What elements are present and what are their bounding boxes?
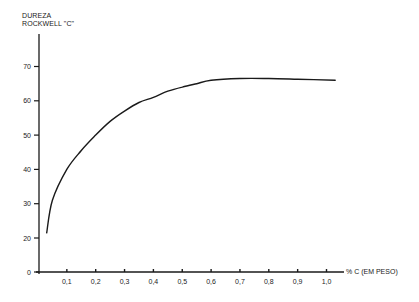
x-tick-label: 1,0 xyxy=(322,278,332,285)
y-ticks: 0203040506070 xyxy=(23,63,39,276)
x-tick-label: 0,9 xyxy=(293,278,303,285)
y-tick-label: 0 xyxy=(27,269,31,276)
x-tick-label: 0,5 xyxy=(177,278,187,285)
x-tick-label: 0,1 xyxy=(62,278,72,285)
hardness-curve xyxy=(47,78,336,233)
x-axis-label: % C (EM PESO) xyxy=(346,268,398,275)
x-tick-label: 0,2 xyxy=(91,278,101,285)
x-tick-label: 0,3 xyxy=(120,278,130,285)
y-tick-label: 30 xyxy=(23,200,31,207)
x-tick-label: 0,8 xyxy=(264,278,274,285)
x-tick-label: 0,4 xyxy=(149,278,159,285)
y-tick-label: 20 xyxy=(23,235,31,242)
y-tick-label: 40 xyxy=(23,166,31,173)
y-tick-label: 60 xyxy=(23,97,31,104)
hardness-vs-carbon-chart: 0203040506070 0,10,20,30,40,50,60,70,80,… xyxy=(0,0,419,302)
axes xyxy=(36,34,344,274)
x-tick-label: 0,7 xyxy=(235,278,245,285)
y-tick-label: 50 xyxy=(23,132,31,139)
x-tick-label: 0,6 xyxy=(206,278,216,285)
y-tick-label: 70 xyxy=(23,63,31,70)
